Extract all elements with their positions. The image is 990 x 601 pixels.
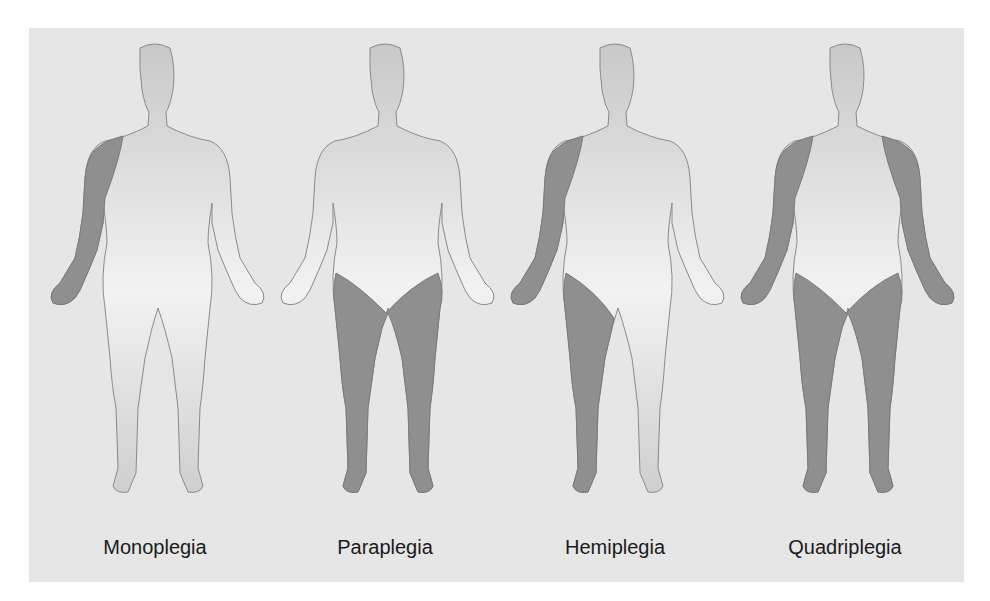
label-hemiplegia: Hemiplegia <box>500 536 730 559</box>
body-outline-icon <box>40 28 270 582</box>
figure-hemiplegia: Hemiplegia <box>500 28 730 582</box>
body-outline-icon <box>270 28 500 582</box>
figure-paraplegia: Paraplegia <box>270 28 500 582</box>
diagram-panel: Monoplegia Paraplegia <box>29 28 964 582</box>
body-outline-icon <box>730 28 960 582</box>
body-outline-icon <box>500 28 730 582</box>
label-quadriplegia: Quadriplegia <box>730 536 960 559</box>
label-paraplegia: Paraplegia <box>270 536 500 559</box>
label-monoplegia: Monoplegia <box>40 536 270 559</box>
figure-monoplegia: Monoplegia <box>40 28 270 582</box>
figure-quadriplegia: Quadriplegia <box>730 28 960 582</box>
